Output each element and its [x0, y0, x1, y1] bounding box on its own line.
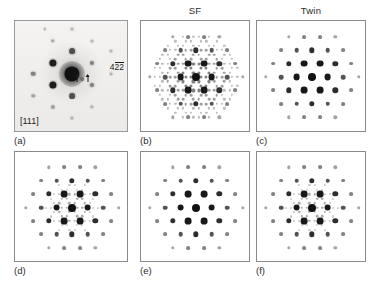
diffraction-spot: [308, 73, 316, 81]
diffraction-spot: [202, 115, 206, 119]
diffraction-spot: [334, 35, 337, 38]
diffraction-spot: [329, 220, 331, 222]
diffraction-spot: [213, 80, 216, 83]
diffraction-spot: [197, 116, 199, 118]
diffraction-spot: [324, 184, 326, 186]
diffraction-spot: [202, 246, 206, 250]
annotation-arrow-1: [77, 75, 78, 82]
diffraction-spot: [271, 89, 275, 93]
diffraction-spot: [202, 35, 206, 39]
diffraction-spot: [308, 229, 310, 231]
diffraction-spot: [186, 35, 190, 39]
diffraction-spot: [216, 40, 218, 42]
diffraction-spot: [314, 229, 316, 231]
diffraction-spot: [171, 116, 174, 119]
diffraction-spot: [163, 102, 167, 106]
diffraction-spot: [31, 94, 35, 98]
diffraction-spot: [39, 179, 43, 183]
diffraction-spot: [174, 103, 176, 105]
diffraction-spot: [228, 80, 230, 82]
diffraction-spot: [294, 48, 299, 53]
diffraction-spot: [93, 218, 98, 223]
diffraction-spot: [200, 49, 203, 52]
diffraction-spot: [279, 205, 284, 210]
diffraction-spot: [184, 94, 187, 97]
diffraction-spot: [154, 76, 156, 78]
diffraction-spot: [271, 192, 275, 196]
diffraction-spot: [53, 211, 55, 213]
diffraction-spot: [231, 67, 233, 69]
diffraction-spot: [174, 58, 177, 61]
diffraction-spot: [225, 48, 229, 52]
diffraction-spot: [221, 58, 223, 60]
diffraction-spot: [318, 115, 322, 119]
diffraction-spot: [177, 80, 180, 83]
diffraction-spot: [300, 206, 303, 209]
diffraction-spot: [208, 89, 211, 92]
diffraction-spot: [45, 206, 47, 208]
diffraction-spot: [316, 218, 323, 225]
diffraction-spot: [192, 89, 195, 92]
diffraction-spot: [186, 165, 190, 169]
diffraction-spot: [324, 220, 326, 222]
diffraction-spot: [163, 205, 168, 210]
diffraction-spot: [197, 45, 199, 47]
diffraction-spot: [316, 224, 318, 226]
diffraction-spot: [66, 224, 68, 226]
diffraction-spot: [193, 47, 198, 52]
diffraction-spot: [71, 28, 74, 31]
diffraction-spot: [318, 35, 322, 39]
diffraction-spot: [166, 62, 168, 64]
diffraction-spot: [74, 229, 76, 231]
diffraction-spot: [171, 166, 174, 169]
diffraction-spot: [316, 191, 323, 198]
diffraction-spot: [155, 192, 159, 196]
diffraction-spot: [184, 103, 187, 106]
diffraction-spot: [161, 98, 163, 100]
diffraction-spot: [228, 98, 230, 100]
col-header-sf: SF: [140, 5, 250, 16]
diffraction-spot: [182, 45, 184, 47]
diffraction-spot: [170, 61, 175, 66]
diffraction-spot: [46, 191, 51, 196]
diffraction-spot: [170, 88, 175, 93]
diffraction-figure: [111]422SFTwin(a)(b)(c)(d)(e)(f): [0, 0, 372, 296]
diffraction-spot: [223, 71, 226, 74]
diffraction-spot: [174, 67, 177, 70]
diffraction-spot: [218, 116, 221, 119]
diffraction-spot: [182, 116, 184, 118]
diffraction-spot: [200, 75, 203, 78]
diffraction-spot: [341, 205, 346, 210]
diffraction-spot: [178, 102, 183, 107]
diffraction-spot: [208, 98, 211, 101]
diffraction-spot: [61, 224, 63, 226]
diffraction-spot: [287, 166, 290, 169]
diffraction-spot: [51, 105, 55, 109]
diffraction-spot: [31, 192, 35, 196]
diffraction-spot: [223, 107, 225, 109]
diffraction-spot: [69, 232, 74, 237]
diffraction-spot: [50, 215, 52, 217]
diffraction-spot: [208, 116, 210, 118]
diffraction-spot: [171, 35, 174, 38]
diffraction-spot: [301, 87, 308, 94]
diffraction-spot: [298, 229, 300, 231]
diffraction-spot: [233, 89, 237, 93]
diffraction-spot: [170, 218, 175, 223]
diffraction-spot: [169, 58, 171, 60]
diffraction-spot: [220, 67, 223, 70]
diffraction-spot: [333, 61, 338, 66]
diffraction-spot: [155, 62, 159, 66]
diffraction-spot: [209, 102, 214, 107]
diffraction-spot: [84, 184, 86, 186]
diffraction-spot: [68, 220, 71, 223]
diffraction-spot: [60, 197, 63, 200]
diffraction-spot: [66, 197, 69, 200]
diffraction-spot: [215, 67, 218, 70]
diffraction-spot: [193, 101, 198, 106]
diffraction-spot: [308, 193, 311, 196]
diffraction-spot: [174, 112, 176, 114]
diffraction-spot: [218, 35, 221, 38]
diffraction-spot: [208, 53, 211, 56]
diffraction-spot: [92, 198, 94, 200]
